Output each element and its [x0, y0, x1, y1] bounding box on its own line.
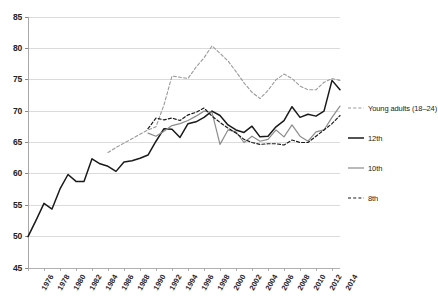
- legend-swatch-8th: [348, 194, 364, 202]
- y-tick-label: 80: [0, 43, 22, 53]
- series-line-12th: [28, 80, 340, 236]
- series-line-8th: [148, 108, 340, 145]
- legend-label-12th: 12th: [368, 134, 382, 143]
- legend-label-8th: 8th: [368, 194, 378, 203]
- legend-label-10th: 10th: [368, 164, 382, 173]
- y-tick-label: 85: [0, 12, 22, 22]
- legend-swatch-10th: [348, 164, 364, 172]
- y-tick-label: 55: [0, 200, 22, 210]
- legend-label-young-adults: Young adults (18–24): [368, 104, 437, 113]
- legend-swatch-young-adults: [348, 104, 364, 112]
- gridlines: [28, 17, 340, 268]
- axis-lines: [25, 17, 28, 268]
- series-lines: [28, 46, 340, 237]
- legend: Young adults (18–24) 12th 10th 8th: [348, 100, 438, 220]
- legend-item-10th[interactable]: 10th: [348, 160, 438, 176]
- y-tick-label: 45: [0, 263, 22, 273]
- x-tick-marks: [28, 268, 332, 271]
- y-tick-label: 50: [0, 231, 22, 241]
- y-tick-label: 75: [0, 74, 22, 84]
- legend-item-8th[interactable]: 8th: [348, 190, 438, 206]
- y-tick-label: 60: [0, 168, 22, 178]
- y-tick-label: 70: [0, 106, 22, 116]
- line-chart: 455055606570758085 197619781980198219841…: [0, 0, 438, 308]
- legend-swatch-12th: [348, 134, 364, 142]
- y-tick-label: 65: [0, 137, 22, 147]
- legend-item-12th[interactable]: 12th: [348, 130, 438, 146]
- legend-item-young-adults[interactable]: Young adults (18–24): [348, 100, 438, 116]
